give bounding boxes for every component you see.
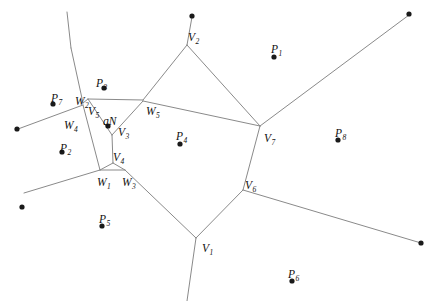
label-base: P	[271, 43, 278, 55]
label-base: P	[96, 77, 103, 89]
label-subscript: 2	[67, 148, 71, 157]
label-base: V	[118, 126, 125, 138]
label-base: V	[202, 242, 209, 254]
voronoi-edge	[88, 99, 143, 100]
label-subscript: 2	[195, 37, 199, 46]
voronoi-edge	[243, 190, 421, 243]
label-base: W	[64, 119, 74, 131]
site-point	[406, 11, 411, 16]
label-p3: P3	[96, 78, 107, 90]
site-points	[14, 11, 423, 283]
label-subscript: 5	[106, 219, 110, 228]
label-base: V	[264, 132, 271, 144]
voronoi-edge	[67, 12, 71, 48]
label-v6: V6	[245, 180, 256, 192]
label-v3: V3	[118, 127, 129, 139]
label-p7: P7	[51, 93, 62, 105]
label-w5: W5	[146, 106, 159, 118]
site-point	[19, 204, 24, 209]
label-subscript: 1	[209, 248, 213, 257]
label-p2: P2	[60, 143, 71, 155]
voronoi-edge	[260, 15, 409, 126]
voronoi-edge	[24, 170, 100, 193]
label-base: W	[75, 95, 85, 107]
label-base: V	[188, 31, 195, 43]
site-point	[418, 240, 423, 245]
label-base: P	[335, 127, 342, 139]
label-qn: qN	[103, 116, 116, 128]
label-base: P	[51, 92, 58, 104]
label-base: W	[122, 176, 132, 188]
label-subscript: 3	[103, 83, 107, 92]
label-subscript: 1	[107, 182, 111, 191]
site-point	[14, 126, 19, 131]
label-subscript: 4	[120, 157, 124, 166]
voronoi-edge	[187, 45, 260, 126]
voronoi-edge	[143, 45, 187, 100]
label-w3: W3	[122, 177, 135, 189]
label-w1: W1	[97, 177, 110, 189]
label-subscript: 8	[342, 133, 346, 142]
label-v1: V1	[202, 243, 213, 255]
label-subscript: 7	[271, 138, 275, 147]
voronoi-edge	[125, 170, 196, 238]
label-w4: W4	[64, 120, 77, 132]
label-base: P	[288, 268, 295, 280]
label-base: P	[176, 130, 183, 142]
label-p8: P8	[335, 128, 346, 140]
label-v5: V5	[88, 106, 99, 118]
label-base: P	[99, 213, 106, 225]
voronoi-edges	[18, 12, 421, 301]
label-subscript: 4	[74, 125, 78, 134]
label-p4: P4	[176, 131, 187, 143]
label-subscript: 5	[156, 111, 160, 120]
label-p6: P6	[288, 269, 299, 281]
voronoi-edge	[196, 190, 243, 238]
label-subscript: 1	[278, 49, 282, 58]
label-subscript: 2	[85, 101, 89, 110]
label-subscript: 5	[95, 111, 99, 120]
label-p5: P5	[99, 214, 110, 226]
label-p1: P1	[271, 44, 282, 56]
label-subscript: 6	[295, 274, 299, 283]
site-point	[189, 13, 194, 18]
label-base: W	[97, 176, 107, 188]
voronoi-edge	[100, 163, 113, 170]
label-base: W	[146, 105, 156, 117]
label-subscript: 7	[58, 98, 62, 107]
label-base: V	[245, 179, 252, 191]
label-base: V	[113, 151, 120, 163]
voronoi-edge	[187, 238, 196, 301]
label-base: V	[88, 105, 95, 117]
label-subscript: 6	[252, 185, 256, 194]
label-base: qN	[103, 115, 116, 127]
label-w2: W2	[75, 96, 88, 108]
label-v7: V7	[264, 133, 275, 145]
voronoi-figure: P1P2P3P4P5P6P7P8V1V2V3V4V5V6V7W1W2W3W4W5…	[0, 0, 433, 301]
label-v2: V2	[188, 32, 199, 44]
voronoi-edge	[143, 101, 260, 126]
label-base: P	[60, 142, 67, 154]
label-v4: V4	[113, 152, 124, 164]
label-subscript: 3	[125, 132, 129, 141]
label-subscript: 4	[183, 136, 187, 145]
label-subscript: 3	[132, 182, 136, 191]
